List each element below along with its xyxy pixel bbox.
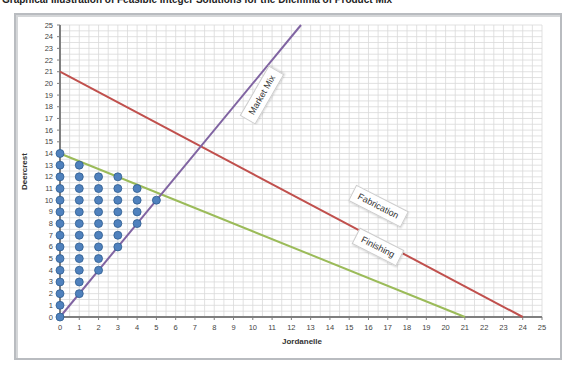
y-axis-title: Deercrest [20, 153, 29, 190]
feasible-point [75, 255, 83, 263]
feasible-point [133, 220, 141, 228]
feasible-point [95, 196, 103, 204]
y-tick-label: 15 [45, 137, 53, 146]
x-tick-label: 8 [212, 323, 216, 332]
feasible-point [75, 266, 83, 274]
feasible-point [56, 149, 64, 157]
x-tick-label: 21 [461, 323, 469, 332]
feasible-point [114, 208, 122, 216]
feasible-point [95, 266, 103, 274]
x-tick-label: 7 [193, 323, 197, 332]
y-tick-label: 13 [45, 161, 53, 170]
feasible-point [75, 220, 83, 228]
feasible-point [133, 196, 141, 204]
feasible-point [75, 290, 83, 298]
feasible-point [133, 185, 141, 193]
x-tick-label: 10 [249, 323, 257, 332]
y-tick-label: 23 [45, 44, 53, 53]
x-tick-label: 18 [403, 323, 411, 332]
y-tick-label: 6 [49, 242, 53, 251]
x-tick-label: 3 [116, 323, 120, 332]
feasible-point [56, 185, 64, 193]
feasible-point [56, 313, 64, 321]
feasible-point [75, 196, 83, 204]
y-tick-label: 20 [45, 79, 53, 88]
x-tick-label: 20 [441, 323, 449, 332]
x-tick-label: 25 [538, 323, 546, 332]
y-tick-label: 24 [45, 32, 53, 41]
chart-plot: 0123456789101112131415161718192021222324… [0, 0, 568, 365]
y-tick-label: 16 [45, 126, 53, 135]
feasible-point [75, 243, 83, 251]
y-tick-label: 7 [49, 231, 53, 240]
feasible-point [56, 266, 64, 274]
feasible-point [114, 173, 122, 181]
x-tick-label: 2 [96, 323, 100, 332]
feasible-point [152, 196, 160, 204]
y-tick-label: 2 [49, 289, 53, 298]
x-tick-label: 16 [364, 323, 372, 332]
y-tick-label: 18 [45, 102, 53, 111]
x-tick-label: 13 [306, 323, 314, 332]
x-tick-label: 19 [422, 323, 430, 332]
y-tick-label: 17 [45, 114, 53, 123]
feasible-point [95, 231, 103, 239]
feasible-point [56, 220, 64, 228]
y-tick-label: 10 [45, 196, 53, 205]
feasible-point [75, 208, 83, 216]
feasible-point [56, 255, 64, 263]
feasible-point [56, 301, 64, 309]
feasible-point [95, 185, 103, 193]
y-tick-label: 19 [45, 91, 53, 100]
feasible-point [56, 161, 64, 169]
x-tick-label: 23 [499, 323, 507, 332]
x-axis-title: Jordanelle [282, 337, 322, 346]
y-tick-label: 11 [45, 184, 53, 193]
x-tick-label: 22 [480, 323, 488, 332]
feasible-point [95, 255, 103, 263]
feasible-point [114, 243, 122, 251]
feasible-point [114, 220, 122, 228]
feasible-point [75, 231, 83, 239]
y-tick-label: 21 [45, 67, 53, 76]
feasible-point [56, 173, 64, 181]
y-tick-label: 3 [49, 277, 53, 286]
feasible-point [75, 278, 83, 286]
y-tick-label: 14 [45, 149, 53, 158]
y-tick-label: 25 [45, 21, 53, 30]
feasible-point [75, 161, 83, 169]
y-tick-label: 1 [49, 301, 53, 310]
x-tick-label: 9 [231, 323, 235, 332]
x-tick-label: 6 [174, 323, 178, 332]
feasible-point [56, 278, 64, 286]
feasible-point [56, 196, 64, 204]
x-tick-label: 1 [77, 323, 81, 332]
x-tick-label: 4 [135, 323, 139, 332]
y-tick-label: 4 [49, 266, 53, 275]
feasible-point [133, 208, 141, 216]
x-tick-label: 24 [519, 323, 527, 332]
feasible-point [114, 231, 122, 239]
x-tick-label: 11 [268, 323, 276, 332]
feasible-point [114, 196, 122, 204]
feasible-point [95, 220, 103, 228]
feasible-point [56, 231, 64, 239]
y-tick-label: 8 [49, 219, 53, 228]
feasible-point [75, 173, 83, 181]
x-tick-label: 0 [58, 323, 62, 332]
feasible-point [56, 290, 64, 298]
y-tick-label: 0 [49, 313, 53, 322]
y-tick-label: 12 [45, 172, 53, 181]
feasible-point [95, 208, 103, 216]
x-tick-label: 12 [287, 323, 295, 332]
feasible-point [114, 185, 122, 193]
feasible-point [56, 243, 64, 251]
x-tick-label: 14 [326, 323, 334, 332]
y-tick-label: 22 [45, 56, 53, 65]
x-tick-label: 15 [345, 323, 353, 332]
feasible-point [95, 243, 103, 251]
x-tick-label: 5 [154, 323, 158, 332]
y-tick-label: 5 [49, 254, 53, 263]
feasible-point [95, 173, 103, 181]
feasible-point [56, 208, 64, 216]
